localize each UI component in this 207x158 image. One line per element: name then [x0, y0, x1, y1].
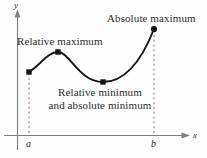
x-axis: [4, 133, 190, 139]
point-relative-maximum: [55, 49, 60, 54]
annotation-relative-maximum: Relative maximum: [17, 35, 103, 48]
annotation-minimum-block: Relative minimum and absolute minimum: [38, 86, 162, 111]
x-tick-label-b: b: [151, 138, 156, 150]
point-absolute-maximum: [151, 26, 157, 32]
annotation-absolute-maximum: Absolute maximum: [107, 12, 196, 25]
x-tick-label-a: a: [26, 138, 31, 150]
point-relative-and-absolute-minimum: [100, 79, 105, 84]
y-axis-label: y: [14, 0, 18, 10]
extrema-figure: Absolute maximum Relative maximum Relati…: [0, 0, 207, 158]
x-axis-arrow-icon: [182, 133, 191, 139]
y-axis: [15, 9, 21, 150]
point-left-endpoint: [26, 69, 31, 74]
annotation-relative-minimum: Relative minimum: [38, 86, 162, 99]
annotation-absolute-minimum: and absolute minimum: [38, 99, 162, 112]
x-axis-label: x: [193, 130, 197, 140]
